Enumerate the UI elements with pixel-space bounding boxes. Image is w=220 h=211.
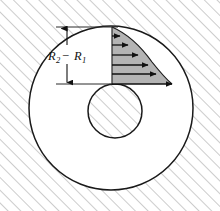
label-minus-sign: − (62, 49, 69, 63)
label-r2-symbol: R (47, 49, 56, 63)
dimension-label-gap: R 2 − R 1 (47, 49, 86, 65)
annulus-velocity-profile-diagram: R 2 − R 1 (0, 0, 220, 211)
figure-container: R 2 − R 1 (0, 0, 220, 211)
label-r1-subscript: 1 (82, 55, 86, 65)
label-r1-symbol: R (73, 49, 82, 63)
